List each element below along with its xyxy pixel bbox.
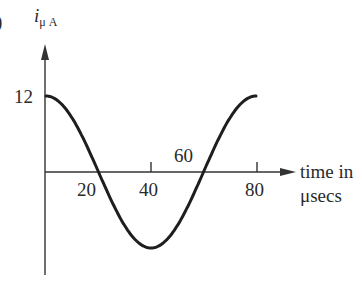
x-axis-label-line2: μsecs bbox=[300, 186, 342, 205]
y-axis-label: iμ A bbox=[34, 6, 57, 25]
y-tick-label-12: 12 bbox=[14, 87, 33, 106]
x-axis-arrow-icon bbox=[280, 168, 296, 176]
x-tick-label-20: 20 bbox=[77, 180, 96, 199]
x-tick-label-40: 40 bbox=[139, 180, 158, 199]
x-tick-label-60: 60 bbox=[174, 146, 193, 165]
chart-canvas bbox=[0, 0, 362, 282]
y-axis-label-sub: μ A bbox=[39, 15, 57, 29]
panel-marker: ) bbox=[0, 12, 2, 31]
x-tick-label-80: 80 bbox=[245, 180, 264, 199]
y-axis-arrow-icon bbox=[41, 44, 49, 60]
x-axis-label-line1: time in bbox=[300, 162, 353, 181]
